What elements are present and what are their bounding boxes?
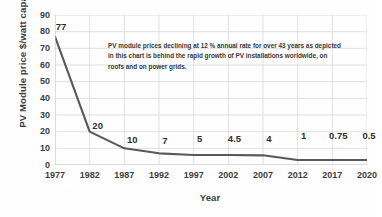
data-point-label: 10 <box>127 134 138 145</box>
data-point-label: 0.5 <box>362 130 375 141</box>
chart-svg <box>55 15 367 165</box>
chart-annotation-text: PV module prices declining at 12 % annua… <box>108 41 360 72</box>
y-tick-label: 40 <box>26 94 50 103</box>
data-point-label: 20 <box>92 120 103 131</box>
annotation-line-3: roofs and on power grids. <box>108 62 360 72</box>
annotation-line-2: in this chart is behind the rapid growth… <box>108 51 360 61</box>
x-axis-title: Year <box>55 192 365 203</box>
data-point-label: 4 <box>266 133 271 144</box>
data-point-label: 77 <box>56 21 67 32</box>
y-tick-label: 0 <box>26 161 50 170</box>
y-tick-label: 10 <box>26 144 50 153</box>
data-point-label: 5 <box>197 133 202 144</box>
y-tick-label: 30 <box>26 111 50 120</box>
data-point-label: 7 <box>162 135 167 146</box>
y-tick-label: 50 <box>26 77 50 86</box>
vertical-gridlines <box>55 15 367 165</box>
annotation-line-1: PV module prices declining at 12 % annua… <box>108 41 360 51</box>
y-axis-tick-labels: 0102030405060708090 <box>26 0 50 217</box>
plot-area: 772010754.5410.750.5 <box>55 15 367 165</box>
y-tick-label: 20 <box>26 127 50 136</box>
y-tick-label: 90 <box>26 11 50 20</box>
data-point-label: 0.75 <box>329 130 348 141</box>
x-axis-tick-labels: 1977198219871992199720022007201220172020 <box>0 170 376 184</box>
data-point-label: 1 <box>301 130 306 141</box>
y-tick-label: 70 <box>26 44 50 53</box>
y-tick-label: 60 <box>26 61 50 70</box>
y-tick-label: 80 <box>26 27 50 36</box>
x-tick-label: 2020 <box>347 170 382 180</box>
gridlines <box>55 15 367 165</box>
data-point-label: 4.5 <box>228 133 241 144</box>
